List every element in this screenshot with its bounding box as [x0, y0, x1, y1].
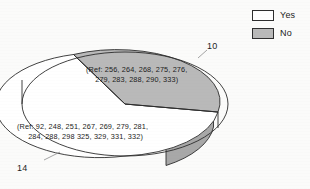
legend-item-yes: Yes	[252, 8, 308, 23]
slice-reference-line-1: (Ref: 92, 248, 251, 267, 269, 279, 281,	[17, 122, 148, 131]
legend-swatch-no-icon	[252, 28, 274, 39]
chart-legend: Yes No	[252, 8, 308, 44]
pie-chart-figure: (Ref: 256, 264, 268, 275, 276, 279, 283,…	[0, 0, 310, 189]
slice-reference-label-yes: (Ref: 92, 248, 251, 267, 269, 279, 281, …	[17, 122, 148, 141]
slice-reference-label-no: (Ref: 256, 264, 268, 275, 276, 279, 283,…	[86, 65, 187, 84]
legend-label-yes: Yes	[280, 10, 295, 21]
slice-value-label-yes: 14	[17, 163, 28, 173]
slice-reference-line-2: 279, 283, 288, 290, 333)	[86, 75, 187, 85]
slice-reference-line-1: (Ref: 256, 264, 268, 275, 276,	[86, 65, 187, 74]
leader-line-yes	[44, 152, 60, 160]
legend-swatch-yes-icon	[252, 10, 274, 21]
legend-item-no: No	[252, 26, 308, 41]
slice-reference-line-2: 284, 288, 298 325, 329, 331, 332)	[17, 132, 148, 142]
slice-value-label-no: 10	[207, 41, 218, 51]
legend-label-no: No	[280, 28, 292, 39]
leader-line-no	[198, 50, 207, 58]
